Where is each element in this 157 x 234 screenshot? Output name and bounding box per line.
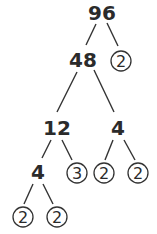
edge-96-2	[107, 23, 118, 46]
node-12: 12	[43, 116, 71, 140]
edge-12-4	[42, 140, 51, 158]
edge-4l-2a	[24, 184, 33, 204]
edge-48-12	[57, 72, 77, 112]
edge-4r-2a	[105, 140, 113, 160]
node-4-right: 4	[111, 116, 125, 140]
leaf-value: 2	[52, 208, 62, 227]
edge-48-4	[94, 70, 114, 112]
edge-96-48	[86, 24, 96, 45]
prime-leaf-3: 3	[67, 163, 87, 183]
prime-leaf-2-bottom-b: 2	[47, 207, 67, 227]
factor-tree-diagram: 96 48 12 4 4 2 3 2 2 2 2	[0, 0, 157, 234]
leaf-value: 2	[99, 164, 109, 183]
leaf-value: 2	[133, 164, 143, 183]
prime-leaf-2-right-b: 2	[128, 163, 148, 183]
edge-4l-2b	[43, 184, 53, 204]
node-48: 48	[69, 48, 97, 72]
leaf-value: 2	[116, 52, 126, 71]
node-4-left: 4	[31, 160, 45, 184]
node-96: 96	[88, 1, 116, 25]
prime-leaf-2-right-a: 2	[94, 163, 114, 183]
prime-leaf-2-top: 2	[111, 51, 131, 71]
leaf-value: 3	[72, 164, 82, 183]
prime-leaf-2-bottom-a: 2	[13, 207, 33, 227]
leaf-value: 2	[18, 208, 28, 227]
edge-12-3	[62, 140, 72, 160]
edge-4r-2b	[124, 140, 135, 160]
